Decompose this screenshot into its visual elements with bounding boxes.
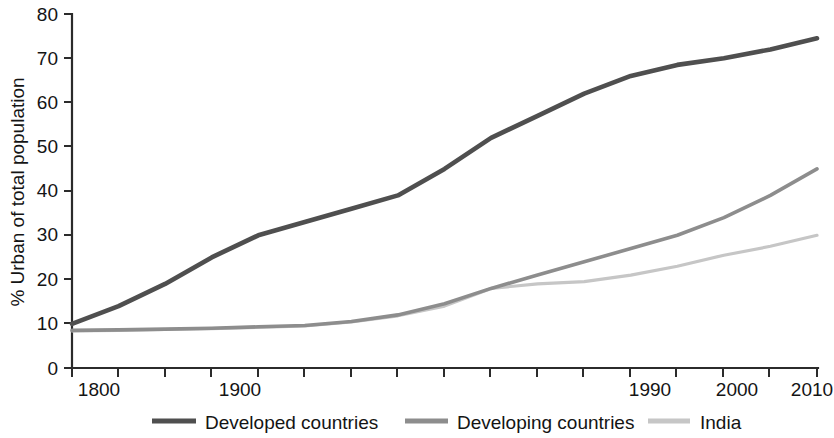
x-tick-label-2000: 2000 [716,379,758,400]
series-group [72,38,817,331]
chart-legend: Developed countries Developing countries… [152,412,742,433]
x-tick-label-2010: 2010 [791,379,833,400]
y-tick-label: 20 [37,269,58,290]
y-tick-label: 50 [37,136,58,157]
y-tick-label: 0 [47,358,58,379]
y-tick-label: 30 [37,224,58,245]
chart-container: % Urban of total population 80 70 60 50 … [0,0,834,438]
legend-item-india[interactable]: India [648,412,742,433]
legend-item-developing[interactable]: Developing countries [405,412,634,433]
y-tick-label: 60 [37,92,58,113]
x-tick-label-1900: 1900 [219,379,261,400]
legend-item-developed[interactable]: Developed countries [152,412,378,433]
x-tick-label-1800: 1800 [78,379,120,400]
x-axis-tick-labels: 1800 1900 1990 2000 2010 [78,379,833,400]
series-line-india [72,235,817,330]
y-tick-label: 70 [37,48,58,69]
legend-label-developing: Developing countries [457,412,634,433]
y-tick-marks [64,14,72,368]
y-axis-tick-labels: 80 70 60 50 40 30 20 10 0 [37,4,58,379]
legend-label-developed: Developed countries [205,412,378,433]
y-tick-label: 40 [37,180,58,201]
series-line-developed [72,38,817,324]
x-tick-marks [72,368,817,377]
y-tick-label: 10 [37,313,58,334]
legend-label-india: India [700,412,742,433]
y-tick-label: 80 [37,4,58,25]
line-chart: % Urban of total population 80 70 60 50 … [0,0,834,438]
x-tick-label-1990: 1990 [629,379,671,400]
y-axis-title: % Urban of total population [7,77,28,306]
